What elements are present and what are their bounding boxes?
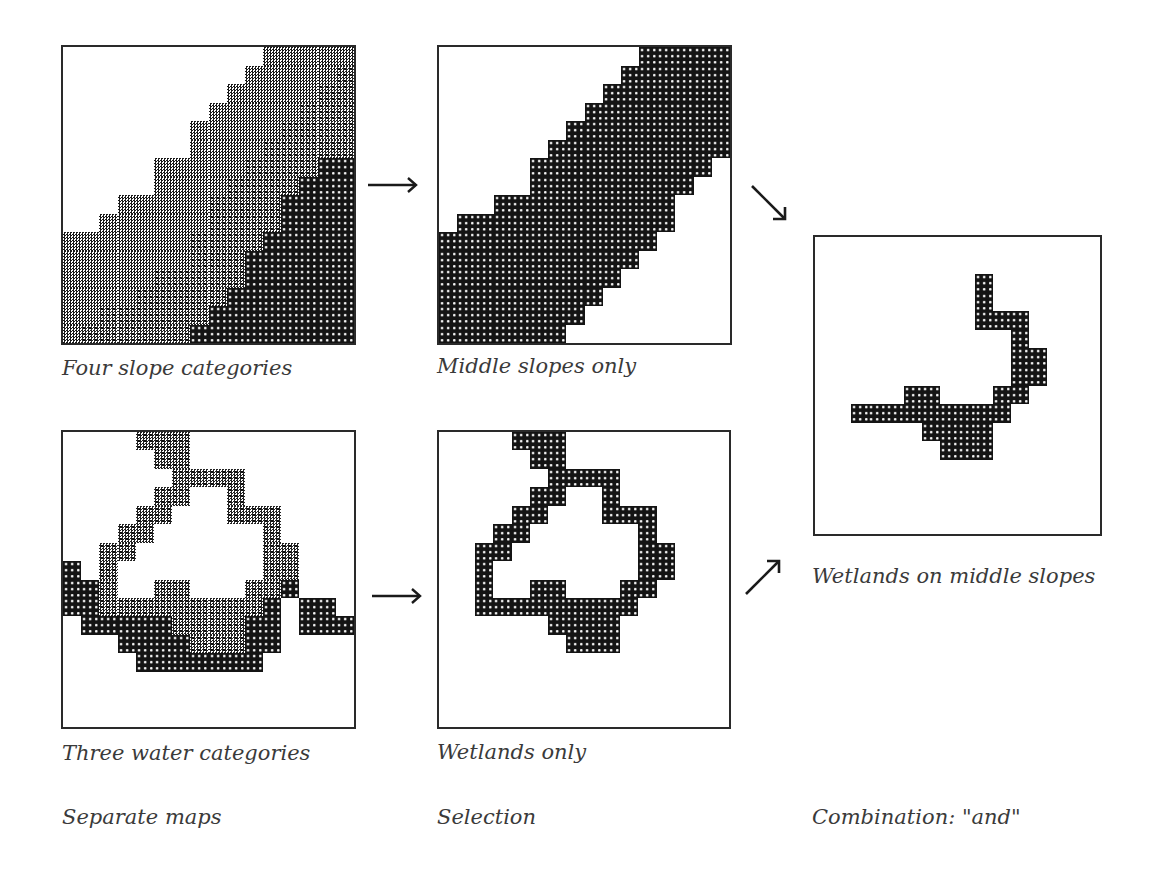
map-cell-medium: [99, 306, 117, 325]
map-cell-dark: [657, 561, 675, 579]
map-cell-empty: [81, 84, 99, 103]
map-cell-dark: [639, 195, 657, 214]
map-cell-empty: [657, 232, 675, 251]
map-grid: [815, 237, 1100, 534]
map-cell-dark: [922, 386, 940, 405]
map-cell-dark: [281, 269, 299, 288]
map-cell-empty: [958, 256, 976, 275]
map-cell-dark: [694, 103, 712, 122]
map-cell-empty: [439, 653, 457, 671]
map-cell-empty: [439, 103, 457, 122]
map-cell-empty: [621, 325, 639, 344]
map-cell-dark: [281, 251, 299, 270]
map-cell-empty: [638, 709, 656, 727]
map-cell-empty: [638, 635, 656, 653]
map-cell-dark: [638, 524, 656, 542]
map-cell-empty: [63, 524, 81, 542]
map-cell-dark: [585, 232, 603, 251]
map-cell-empty: [99, 195, 117, 214]
map-cell-medium: [172, 325, 190, 344]
map-cell-empty: [602, 709, 620, 727]
map-cell-dark: [922, 404, 940, 423]
map-cell-dark: [639, 121, 657, 140]
map-cell-empty: [638, 598, 656, 616]
map-cell-empty: [209, 450, 227, 468]
map-cell-empty: [63, 121, 81, 140]
map-cell-dark: [603, 251, 621, 270]
map-cell-empty: [512, 672, 530, 690]
map-cell-medium: [263, 506, 281, 524]
map-cell-dark: [712, 121, 730, 140]
map-cell-empty: [99, 524, 117, 542]
map-cell-empty: [494, 66, 512, 85]
map-cell-empty: [1047, 497, 1065, 516]
map-cell-dark: [457, 288, 475, 307]
map-cell-medium: [227, 635, 245, 653]
map-cell-empty: [958, 237, 976, 256]
map-cell-dark: [494, 269, 512, 288]
map-cell-empty: [851, 311, 869, 330]
map-grid: [63, 432, 354, 727]
map-cell-empty: [922, 330, 940, 349]
arrow-right-icon: [370, 586, 424, 606]
map-cell-dark: [493, 543, 511, 561]
map-cell-empty: [851, 441, 869, 460]
map-cell-empty: [958, 274, 976, 293]
map-cell-dark: [227, 288, 245, 307]
map-cell-empty: [154, 672, 172, 690]
map-cell-empty: [172, 103, 190, 122]
map-cell-dark: [439, 288, 457, 307]
map-cell-empty: [833, 460, 851, 479]
map-cell-empty: [63, 47, 81, 66]
map-cell-empty: [336, 653, 354, 671]
map-cell-dark: [675, 177, 693, 196]
map-cell-dark: [602, 616, 620, 634]
map-cell-dark: [245, 288, 263, 307]
map-cell-dark: [336, 251, 354, 270]
map-cell-dark: [512, 214, 530, 233]
map-cell-empty: [209, 84, 227, 103]
map-cell-empty: [154, 47, 172, 66]
map-cell-empty: [815, 386, 833, 405]
column-title-selection: Selection: [437, 805, 536, 829]
map-cell-empty: [657, 672, 675, 690]
map-cell-medium: [263, 177, 281, 196]
map-cell-empty: [1064, 497, 1082, 516]
map-cell-empty: [1011, 293, 1029, 312]
map-cell-empty: [993, 497, 1011, 516]
map-cell-dark: [281, 195, 299, 214]
map-cell-empty: [118, 140, 136, 159]
map-cell-light: [136, 251, 154, 270]
map-cell-empty: [299, 709, 317, 727]
map-cell-empty: [1029, 515, 1047, 534]
map-cell-medium: [336, 66, 354, 85]
map-cell-empty: [439, 487, 457, 505]
map-cell-light: [190, 214, 208, 233]
map-cell-empty: [711, 598, 729, 616]
map-cell-empty: [975, 367, 993, 386]
map-cell-empty: [638, 469, 656, 487]
map-cell-dark: [548, 288, 566, 307]
map-cell-dark: [621, 103, 639, 122]
map-cell-empty: [975, 237, 993, 256]
map-cell-light: [154, 177, 172, 196]
map-cell-empty: [694, 269, 712, 288]
map-cell-dark: [657, 177, 675, 196]
map-cell-empty: [318, 469, 336, 487]
map-cell-empty: [530, 635, 548, 653]
map-cell-medium: [209, 469, 227, 487]
map-cell-empty: [99, 177, 117, 196]
map-cell-medium: [227, 616, 245, 634]
map-cell-empty: [675, 487, 693, 505]
map-cell-empty: [227, 432, 245, 450]
map-cell-dark: [639, 47, 657, 66]
map-cell-dark: [439, 232, 457, 251]
map-cell-empty: [245, 561, 263, 579]
map-cell-dark: [457, 269, 475, 288]
map-cell-dark: [566, 598, 584, 616]
map-cell-empty: [475, 690, 493, 708]
map-cell-empty: [922, 497, 940, 516]
map-cell-dark: [530, 251, 548, 270]
map-cell-dark: [566, 140, 584, 159]
map-cell-empty: [118, 506, 136, 524]
